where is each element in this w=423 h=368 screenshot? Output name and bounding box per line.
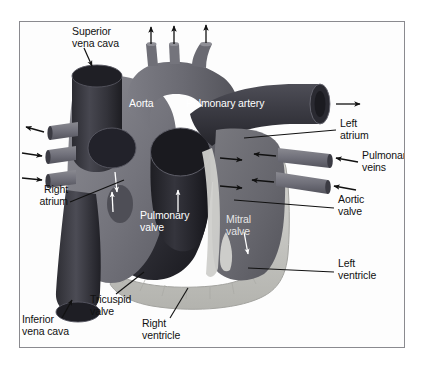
label-mitral-valve: Mitral valve xyxy=(226,214,251,237)
flow-arrow-left-side xyxy=(22,127,44,180)
label-pulmonary-veins: Pulmonary veins xyxy=(362,150,405,173)
label-left-atrium: Left atrium xyxy=(340,118,369,141)
label-aortic-valve: Aortic valve xyxy=(338,194,364,217)
label-right-atrium: Right atrium xyxy=(20,184,68,207)
flow-arrow-pulmonary-veins xyxy=(334,158,358,190)
heart-diagram-figure: Superior vena cava Aorta Pulmonary arter… xyxy=(0,0,423,368)
label-left-ventricle: Left ventricle xyxy=(338,258,376,281)
label-aorta: Aorta xyxy=(129,98,154,110)
label-tricuspid-valve: Tricuspid valve xyxy=(90,294,131,317)
label-superior-vena-cava: Superior vena cava xyxy=(72,26,119,49)
flow-arrow-aortic-branches xyxy=(151,25,206,44)
left-side-vessels xyxy=(45,122,78,188)
label-pulmonary-artery: Pulmonary artery xyxy=(186,98,264,110)
tricuspid-ring-opening xyxy=(88,128,136,168)
label-right-ventricle: Right ventricle xyxy=(142,318,180,341)
diagram-frame: Superior vena cava Aorta Pulmonary arter… xyxy=(19,21,405,348)
label-inferior-vena-cava: Inferior vena cava xyxy=(22,314,69,337)
label-pulmonary-valve: Pulmonary valve xyxy=(140,210,189,233)
leader-superior-vena-cava xyxy=(84,48,92,66)
heart-illustration xyxy=(20,22,403,346)
